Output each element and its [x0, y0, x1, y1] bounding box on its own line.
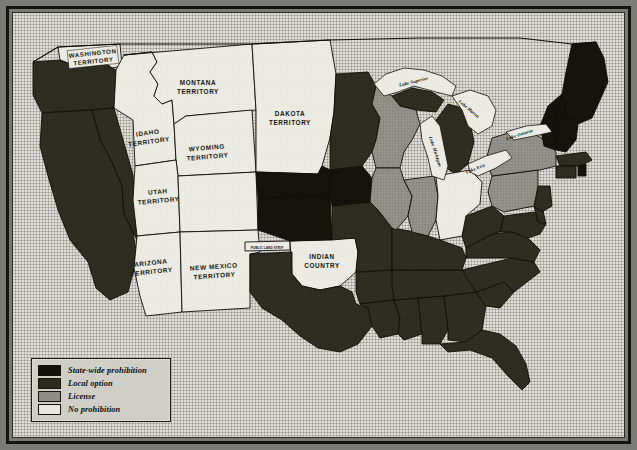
state-alabama	[418, 296, 448, 344]
legend-swatch-statewide	[38, 365, 61, 376]
label-dakota-territory-line1: DAKOTA	[275, 110, 305, 117]
state-arkansas	[356, 270, 394, 304]
state-kansas	[258, 196, 332, 241]
legend-item-statewide: State-wide prohibition	[38, 364, 164, 377]
label-montana-territory-line1: MONTANA	[180, 79, 216, 86]
legend-item-no-prohibition: No prohibition	[38, 403, 164, 416]
state-pennsylvania	[488, 170, 538, 212]
legend-label-local-option: Local option	[68, 379, 113, 388]
legend-item-license: License	[38, 390, 164, 403]
label-indian-country-line2: COUNTRY	[304, 262, 340, 269]
label-montana-territory-line2: TERRITORY	[177, 88, 219, 95]
legend-swatch-local-option	[38, 378, 61, 389]
state-rhode-island	[578, 164, 586, 176]
legend-item-local-option: Local option	[38, 377, 164, 390]
territory-colorado-white-edge	[178, 172, 258, 232]
map-plate: WASHINGTON TERRITORY MONTANA TERRITORY I…	[0, 0, 637, 450]
state-maine	[562, 42, 608, 124]
label-dakota-territory-line2: TERRITORY	[269, 119, 311, 126]
state-massachusetts	[556, 152, 592, 166]
legend-label-no-prohibition: No prohibition	[68, 405, 120, 414]
label-indian-country-line1: INDIAN	[309, 253, 335, 260]
territory-dakota	[252, 40, 336, 174]
legend-label-license: License	[68, 392, 95, 401]
map-legend: State-wide prohibition Local option Lice…	[31, 358, 171, 422]
legend-label-statewide: State-wide prohibition	[68, 366, 147, 375]
legend-swatch-license	[38, 391, 61, 402]
state-iowa	[330, 166, 372, 206]
label-public-land-strip: PUBLIC LAND STRIP	[251, 246, 284, 250]
state-connecticut	[556, 166, 576, 178]
legend-swatch-no-prohibition	[38, 404, 61, 415]
